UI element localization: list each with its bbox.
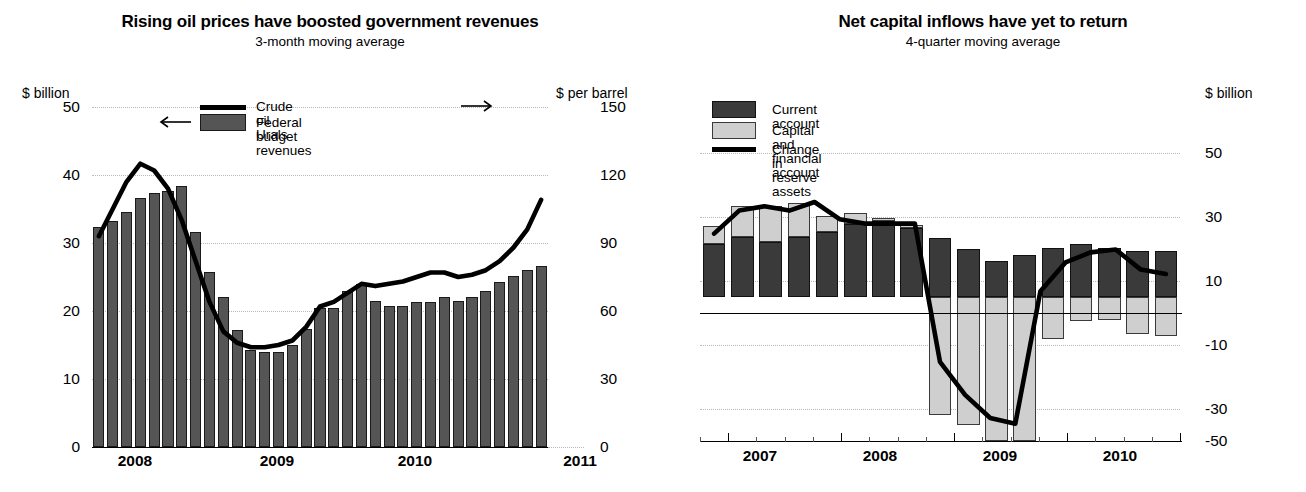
- ytick-10: 10: [1205, 273, 1265, 289]
- ytick-50: 50: [1205, 145, 1265, 161]
- x-tick-major: [1067, 433, 1068, 442]
- x-tick-minor: [926, 437, 927, 442]
- xlabel-2011: 2011: [540, 452, 620, 470]
- x-tick-minor: [1124, 437, 1125, 442]
- x-tick-major: [1180, 433, 1181, 442]
- chart-title-right: Net capital inflows have yet to return: [660, 12, 1306, 32]
- x-tick-minor: [700, 437, 701, 442]
- x-axis-line-left: [92, 447, 548, 448]
- ytick-left-50: 50: [30, 99, 80, 115]
- xlabel-2008: 2008: [80, 452, 190, 470]
- x-tick-minor: [982, 437, 983, 442]
- chart-subtitle-left: 3-month moving average: [0, 34, 660, 49]
- ytick-right-120: 120: [600, 167, 656, 183]
- xlabel-right-2007: 2007: [705, 447, 815, 465]
- x-tick-major: [728, 433, 729, 442]
- xlabel-2009: 2009: [222, 452, 332, 470]
- x-tick-major: [954, 433, 955, 442]
- chart-title-left: Rising oil prices have boosted governmen…: [0, 12, 660, 32]
- chart-panel-right: Net capital inflows have yet to return 4…: [660, 0, 1306, 492]
- line-change-in-reserve-assets: [700, 153, 1180, 441]
- line-crude-oil-urals: [92, 107, 548, 447]
- legend-swatch-change-reserve-assets: [712, 147, 756, 152]
- ytick-neg30: -30: [1205, 401, 1265, 417]
- x-tick-minor: [1095, 437, 1096, 442]
- x-tick-minor: [898, 437, 899, 442]
- x-axis-line-right: [700, 441, 1182, 442]
- legend-swatch-current-account: [712, 101, 756, 118]
- zero-line-right: [700, 313, 1182, 314]
- gridline-0-extension: [548, 447, 584, 448]
- ytick-right-30: 30: [600, 371, 656, 387]
- x-tick-minor: [756, 437, 757, 442]
- x-tick-minor: [813, 437, 814, 442]
- chart-panel-left: Rising oil prices have boosted governmen…: [0, 0, 660, 492]
- xlabel-2010: 2010: [360, 452, 470, 470]
- ytick-left-10: 10: [30, 371, 80, 387]
- ytick-neg10: -10: [1205, 337, 1265, 353]
- ytick-right-60: 60: [600, 303, 656, 319]
- y-axis-unit-right-panel: $ billion: [1205, 85, 1252, 101]
- ytick-right-150: 150: [600, 99, 656, 115]
- x-tick-minor: [1152, 437, 1153, 442]
- xlabel-right-2010: 2010: [1065, 447, 1175, 465]
- ytick-right-90: 90: [600, 235, 656, 251]
- ytick-left-0: 0: [30, 439, 80, 455]
- chart-subtitle-right: 4-quarter moving average: [660, 34, 1306, 49]
- x-tick-minor: [1039, 437, 1040, 442]
- figure-root: Rising oil prices have boosted governmen…: [0, 0, 1306, 492]
- ytick-left-20: 20: [30, 303, 80, 319]
- ytick-left-30: 30: [30, 235, 80, 251]
- x-tick-minor: [869, 437, 870, 442]
- ytick-30: 30: [1205, 209, 1265, 225]
- xlabel-right-2008: 2008: [825, 447, 935, 465]
- ytick-left-40: 40: [30, 167, 80, 183]
- legend-swatch-capital-financial-account: [712, 122, 756, 139]
- x-tick-major: [841, 433, 842, 442]
- x-tick-minor: [785, 437, 786, 442]
- x-tick-minor: [1011, 437, 1012, 442]
- ytick-neg50: -50: [1205, 433, 1265, 449]
- xlabel-right-2009: 2009: [945, 447, 1055, 465]
